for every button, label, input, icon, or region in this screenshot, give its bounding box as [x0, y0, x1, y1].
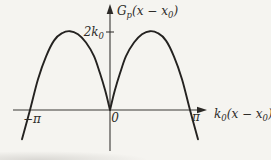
- x-tick-label-zero: 0: [111, 111, 119, 125]
- y-tick-label-2k0: 2k0: [83, 25, 105, 41]
- y-axis-label: Gp(x − x0): [117, 4, 178, 20]
- axes: [13, 4, 207, 151]
- chart-canvas: Gp(x − x0) k0(x − x0) 2k0 −π 0 π: [0, 0, 271, 160]
- x-tick-label-neg-pi: −π: [23, 112, 42, 126]
- x-axis-label: k0(x − x0): [214, 107, 271, 123]
- y-axis-arrowhead-icon: [107, 4, 114, 14]
- figure: Gp(x − x0) k0(x − x0) 2k0 −π 0 π: [0, 0, 271, 160]
- x-tick-label-pos-pi: π: [191, 110, 201, 124]
